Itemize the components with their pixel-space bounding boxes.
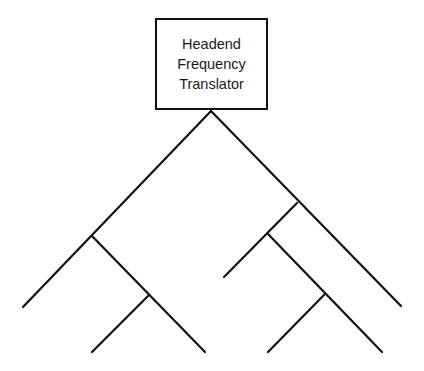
box-label-line-1: Headend: [182, 34, 241, 54]
left-trunk-line: [23, 111, 211, 307]
box-label-line-2: Frequency: [177, 54, 246, 74]
left-sub-leaf-line: [92, 295, 149, 352]
box-label-line-3: Translator: [179, 74, 244, 94]
headend-frequency-translator-box: Headend Frequency Translator: [155, 18, 268, 110]
network-tree-diagram: Headend Frequency Translator: [0, 0, 424, 371]
right-branch-line: [224, 203, 297, 277]
right-sub-leaf-line: [268, 295, 324, 352]
right-trunk-line: [211, 111, 401, 306]
